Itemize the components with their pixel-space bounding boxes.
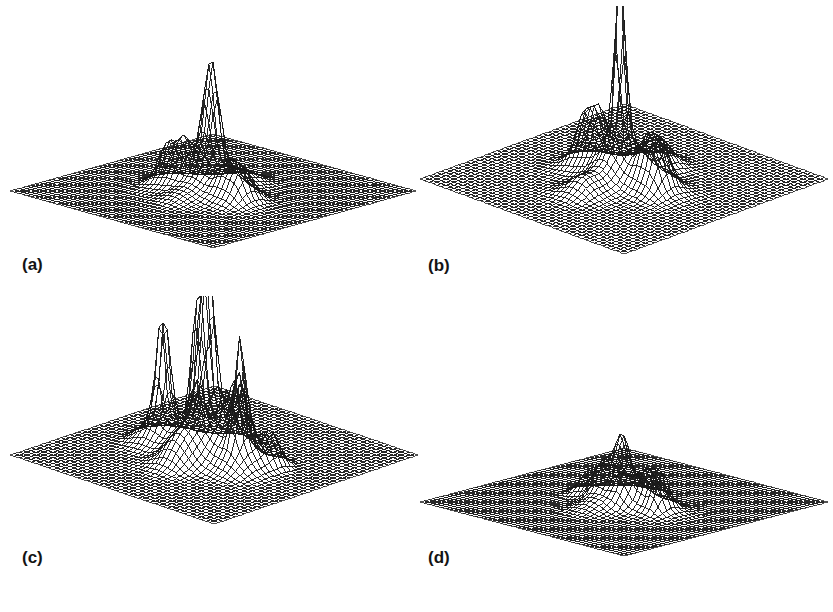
mesh-path (10, 62, 416, 248)
panel-label-a: (a) (22, 255, 43, 275)
surface-wireframe-b (418, 6, 830, 256)
surface-plot-panel-d (418, 378, 830, 558)
surface-wireframe-d (418, 378, 830, 558)
surface-plot-panel-c (8, 296, 420, 526)
surface-wireframe-c (8, 296, 420, 526)
mesh-path (10, 296, 418, 524)
mesh-path (420, 434, 828, 556)
surface-plot-panel-a (8, 60, 418, 250)
surface-wireframe-a (8, 60, 418, 250)
panel-label-b: (b) (428, 256, 450, 276)
mesh-path (420, 6, 828, 254)
four-panel-surface-figure: (a) (b) (c) (d) (0, 0, 833, 612)
panel-label-c: (c) (22, 548, 43, 568)
panel-label-d: (d) (428, 548, 450, 568)
surface-plot-panel-b (418, 6, 830, 256)
